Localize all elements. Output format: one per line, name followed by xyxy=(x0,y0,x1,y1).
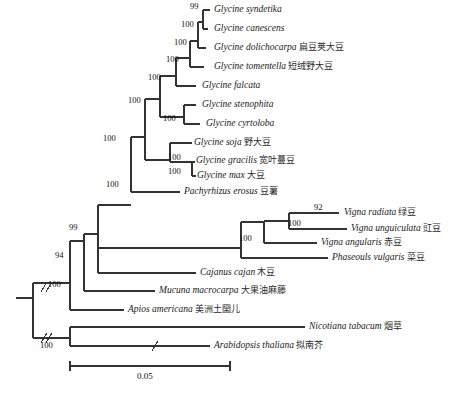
bootstrap-value: 100 xyxy=(239,234,252,243)
taxon-chinese: 美洲土圞儿 xyxy=(193,304,240,314)
taxon-chinese: 扁豆荚大豆 xyxy=(297,42,344,52)
taxon-latin: Apios americana xyxy=(128,304,193,314)
taxon-chinese: 烟草 xyxy=(382,321,402,331)
taxon-chinese xyxy=(274,118,276,128)
taxon-latin: Glycine dolichocarpa xyxy=(214,42,297,52)
taxon-latin: Glycine max xyxy=(197,170,245,180)
taxon-label: Glycine canescens xyxy=(214,23,286,34)
scale-bar-label: 0.05 xyxy=(137,371,153,381)
bootstrap-value: 100 xyxy=(168,153,181,162)
taxon-latin: Glycine tomentella xyxy=(214,61,286,71)
bootstrap-value: 100 xyxy=(174,38,187,47)
taxon-latin: Vigna unguiculata xyxy=(351,223,421,233)
bootstrap-value: 100 xyxy=(48,280,61,289)
taxon-label: Nicotiana tabacum烟草 xyxy=(309,321,402,332)
taxon-label: Vigna angularis赤豆 xyxy=(321,237,402,248)
taxon-label: Vigna unguiculata豇豆 xyxy=(351,223,441,234)
taxon-chinese: 拟南芥 xyxy=(294,340,323,350)
taxon-latin: Glycine soja xyxy=(194,137,242,147)
taxon-chinese: 宽叶蔓豆 xyxy=(257,155,295,165)
taxon-latin: Pachyrhizus erosus xyxy=(184,186,258,196)
bootstrap-value: 100 xyxy=(181,20,194,29)
taxon-label: Mucuna macrocarpa大果油麻藤 xyxy=(159,285,286,296)
taxon-chinese: 野大豆 xyxy=(242,137,271,147)
taxon-latin: Glycine falcata xyxy=(202,80,260,90)
taxon-latin: Glycine stenophita xyxy=(202,99,274,109)
taxon-label: Vigna radiata绿豆 xyxy=(344,207,416,218)
taxon-chinese: 绿豆 xyxy=(396,207,416,217)
phylogenetic-tree-figure: Glycine syndetika Glycine canescens Glyc… xyxy=(0,0,451,396)
taxon-label: Glycine max大豆 xyxy=(197,170,265,181)
taxon-latin: Phaseouls vulgaris xyxy=(332,252,405,262)
taxon-latin: Vigna radiata xyxy=(344,207,396,217)
taxon-latin: Mucuna macrocarpa xyxy=(159,285,239,295)
taxon-label: Glycine stenophita xyxy=(202,99,276,110)
taxon-chinese xyxy=(282,4,284,14)
taxon-chinese: 豆薯 xyxy=(258,186,278,196)
bootstrap-value: 100 xyxy=(40,341,53,350)
taxon-chinese: 菜豆 xyxy=(405,252,425,262)
taxon-chinese: 赤豆 xyxy=(382,237,402,247)
taxon-latin: Arabidopsis thaliana xyxy=(214,340,294,350)
taxon-chinese: 大豆 xyxy=(245,170,265,180)
taxon-label: Apios americana美洲土圞儿 xyxy=(128,304,240,315)
taxon-label: Cajanus cajan木豆 xyxy=(200,267,275,278)
bootstrap-value: 94 xyxy=(55,251,64,260)
taxon-label: Glycine soja野大豆 xyxy=(194,137,271,148)
taxon-chinese xyxy=(284,23,286,33)
taxon-label: Glycine gracilis宽叶蔓豆 xyxy=(196,155,295,166)
taxon-latin: Glycine canescens xyxy=(214,23,284,33)
taxon-chinese: 豇豆 xyxy=(421,223,441,233)
taxon-label: Glycine cyrtoloba xyxy=(206,118,276,129)
bootstrap-value: 100 xyxy=(163,114,176,123)
tree-branches xyxy=(0,0,451,396)
taxon-chinese: 短绒野大豆 xyxy=(286,61,333,71)
bootstrap-value: 100 xyxy=(168,167,181,176)
taxon-label: Arabidopsis thaliana拟南芥 xyxy=(214,340,323,351)
taxon-label: Glycine syndetika xyxy=(214,4,284,15)
taxon-chinese: 木豆 xyxy=(255,267,275,277)
bootstrap-value: 100 xyxy=(103,134,116,143)
taxon-latin: Vigna angularis xyxy=(321,237,382,247)
bootstrap-value: 100 xyxy=(166,55,179,64)
bootstrap-value: 99 xyxy=(190,2,199,11)
taxon-latin: Glycine cyrtoloba xyxy=(206,118,274,128)
bootstrap-value: 100 xyxy=(148,73,161,82)
bootstrap-value: 99 xyxy=(69,223,78,232)
taxon-label: Pachyrhizus erosus豆薯 xyxy=(184,186,278,197)
taxon-latin: Cajanus cajan xyxy=(200,267,255,277)
taxon-latin: Glycine syndetika xyxy=(214,4,282,14)
taxon-label: Glycine tomentella短绒野大豆 xyxy=(214,61,333,72)
taxon-chinese xyxy=(274,99,276,109)
bootstrap-value: 92 xyxy=(314,203,323,212)
taxon-latin: Glycine gracilis xyxy=(196,155,257,165)
taxon-chinese: 大果油麻藤 xyxy=(239,285,286,295)
bootstrap-value: 100 xyxy=(106,180,119,189)
taxon-chinese xyxy=(260,80,262,90)
taxon-label: Glycine dolichocarpa扁豆荚大豆 xyxy=(214,42,344,53)
taxon-label: Phaseouls vulgaris菜豆 xyxy=(332,252,425,263)
taxon-label: Glycine falcata xyxy=(202,80,262,91)
bootstrap-value: 100 xyxy=(128,96,141,105)
bootstrap-value: 100 xyxy=(288,219,301,228)
taxon-latin: Nicotiana tabacum xyxy=(309,321,382,331)
